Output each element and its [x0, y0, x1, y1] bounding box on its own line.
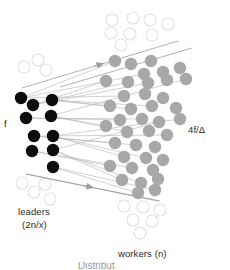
- workers-node: [161, 74, 173, 86]
- ghost-leaders-node: [32, 54, 44, 66]
- workers-node: [153, 116, 165, 128]
- workers-node: [145, 55, 157, 67]
- figure-caption: Distribut: [78, 262, 115, 270]
- workers-node: [136, 113, 148, 125]
- workers-node: [143, 125, 155, 137]
- ghost-leaders-node: [28, 186, 40, 198]
- workers-node: [152, 173, 164, 185]
- figure-container: f 4f/Δ leaders (2n/x) workers (n) Distri…: [0, 0, 230, 270]
- workers-node: [118, 151, 130, 163]
- workers-node: [146, 100, 158, 112]
- ghost-workers-node: [127, 12, 139, 24]
- workers-node: [121, 126, 133, 138]
- workers-group-label: workers (n): [118, 248, 167, 259]
- leaders-node: [20, 112, 32, 124]
- workers-node: [161, 129, 173, 141]
- workers-node: [100, 120, 112, 132]
- flow-arrowhead: [94, 64, 103, 67]
- ghost-workers-node: [118, 200, 130, 212]
- leaders-group-sublabel: (2n/x): [22, 219, 47, 230]
- leaders-node: [26, 145, 38, 157]
- ghost-workers-node: [146, 29, 158, 41]
- workers-node: [116, 174, 128, 186]
- workers-node: [170, 102, 182, 114]
- workers-node: [174, 62, 186, 74]
- workers-node: [149, 141, 161, 153]
- ghost-leaders-node: [16, 177, 28, 189]
- ghost-workers-node: [106, 14, 118, 26]
- workers-node: [125, 58, 137, 70]
- leader-node-label-f: f: [4, 118, 7, 129]
- workers-node: [126, 162, 138, 174]
- ghost-workers-node: [162, 18, 174, 30]
- flow-arrowhead: [84, 186, 93, 188]
- workers-node: [125, 103, 137, 115]
- workers-node: [180, 73, 192, 85]
- workers-node: [118, 90, 130, 102]
- leaders-node: [28, 130, 40, 142]
- workers-node: [174, 113, 186, 125]
- ghost-leaders-node: [40, 64, 52, 76]
- workers-node: [109, 55, 121, 67]
- workers-node: [157, 154, 169, 166]
- ghost-leaders-node: [44, 193, 56, 205]
- workers-node: [132, 187, 144, 199]
- worker-nodes-layer: [100, 55, 192, 199]
- workers-node: [140, 152, 152, 164]
- figure-caption-clip: Distribut: [0, 262, 230, 270]
- workers-node: [130, 139, 142, 151]
- leader-nodes-layer: [15, 92, 59, 173]
- ghost-workers-node: [137, 201, 149, 213]
- worker-node-label-ratio: 4f/Δ: [188, 124, 205, 135]
- workers-node: [142, 77, 154, 89]
- workers-node: [157, 92, 169, 104]
- leaders-node: [47, 130, 59, 142]
- workers-node: [109, 137, 121, 149]
- leaders-group-label: leaders: [18, 206, 50, 217]
- workers-node: [104, 160, 116, 172]
- ghost-workers-node: [105, 27, 117, 39]
- mapping-edge: [52, 100, 131, 109]
- workers-node: [114, 114, 126, 126]
- workers-node: [139, 88, 151, 100]
- leaders-node: [47, 161, 59, 173]
- leaders-node: [46, 94, 58, 106]
- workers-node: [149, 184, 161, 196]
- ghost-workers-node: [146, 215, 158, 227]
- leaders-node: [47, 144, 59, 156]
- ghost-leaders-node: [18, 61, 30, 73]
- ghost-workers-node: [124, 28, 136, 40]
- ghost-leaders-node: [39, 178, 51, 190]
- leaders-node: [15, 92, 27, 104]
- ghost-workers-node: [154, 204, 166, 216]
- ghost-workers-node: [134, 227, 146, 239]
- workers-node: [122, 76, 134, 88]
- leaders-node: [45, 110, 57, 122]
- ghost-workers-node: [144, 14, 156, 26]
- ghost-workers-node: [127, 214, 139, 226]
- ghost-workers-node: [115, 39, 127, 51]
- leaders-node: [27, 99, 39, 111]
- workers-node: [104, 100, 116, 112]
- workers-node: [100, 75, 112, 87]
